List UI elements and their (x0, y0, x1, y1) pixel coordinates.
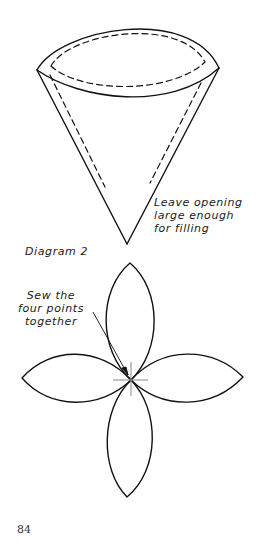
cone-rim-front-arc (37, 68, 219, 97)
petal-right (131, 354, 243, 402)
diagram-2-title: Diagram 2 (25, 245, 88, 258)
petal-top (106, 263, 154, 380)
flower-annotation: Sew the four points together (18, 289, 84, 328)
cone-annotation-line-3: for filling (154, 222, 243, 235)
crosshair-icon (113, 362, 148, 396)
diagram-2-label: Diagram 2 (25, 245, 88, 258)
petal-bottom (107, 380, 152, 497)
left-seam-dashed (50, 75, 105, 187)
illustration-canvas (0, 0, 263, 546)
right-seam-dashed (150, 83, 201, 183)
flower-annotation-line-1: Sew the (18, 289, 84, 302)
cone-rim-outer-arc (37, 29, 219, 70)
cone-seam-lines (50, 34, 205, 187)
cone-annotation-line-1: Leave opening (154, 196, 243, 209)
flower-annotation-line-2: four points (18, 302, 84, 315)
leader-arrow (93, 312, 128, 375)
flower-annotation-line-3: together (18, 315, 84, 328)
page-number: 84 (17, 523, 31, 536)
petal-left (22, 354, 131, 402)
cone-annotation-line-2: large enough (154, 209, 243, 222)
cone-annotation: Leave opening large enough for filling (154, 196, 243, 235)
